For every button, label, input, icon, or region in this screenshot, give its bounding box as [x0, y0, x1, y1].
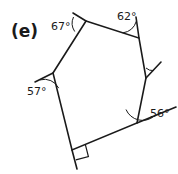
angle-arc-67 [72, 17, 75, 32]
angle-label-57: 57° [27, 86, 47, 97]
angle-arc-right-vertex [146, 68, 154, 71]
pentagon-outline [53, 21, 146, 150]
right-angle-square-mark [76, 144, 89, 159]
angle-label-56: 56° [150, 108, 170, 119]
angle-label-62: 62° [117, 11, 137, 22]
geometry-figure: (e) 67° 62° 57° 56° [0, 0, 178, 174]
angle-label-67: 67° [51, 21, 71, 32]
extension-ray-top-left [73, 13, 86, 21]
part-label: (e) [11, 23, 38, 40]
